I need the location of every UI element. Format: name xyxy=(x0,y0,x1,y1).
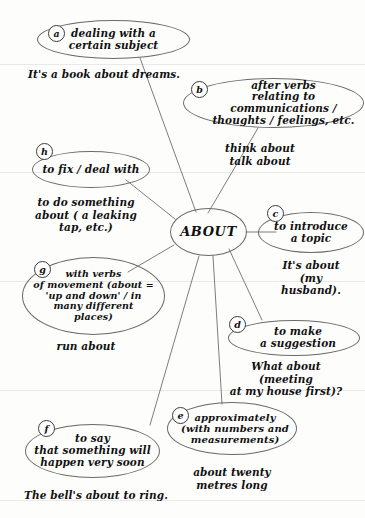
example-e: about twenty metres long xyxy=(186,466,278,491)
node-e-badge: e xyxy=(172,407,189,424)
example-g: run about xyxy=(40,340,132,353)
example-b: think about talk about xyxy=(219,142,301,167)
node-c-badge-letter: c xyxy=(273,209,279,219)
example-h: to do something about ( a leaking tap, e… xyxy=(34,196,138,234)
example-d: What about (meeting at my house first)? xyxy=(224,360,348,398)
node-a-badge: a xyxy=(48,25,65,42)
node-g-badge: g xyxy=(34,261,51,278)
connector-center-e xyxy=(213,256,222,404)
node-g-label: with verbs of movement (about = 'up and … xyxy=(27,269,160,322)
node-d-badge: d xyxy=(229,316,246,333)
node-d-badge-letter: d xyxy=(234,320,241,330)
example-a: It's a book about dreams. xyxy=(28,68,188,81)
node-g-badge-letter: g xyxy=(39,265,46,275)
center-node-label: ABOUT xyxy=(174,225,243,240)
connector-center-d xyxy=(229,249,262,320)
node-b[interactable]: after verbs relating to communications /… xyxy=(183,78,364,128)
node-f-badge-letter: f xyxy=(44,424,48,434)
center-node-about[interactable]: ABOUT xyxy=(170,208,247,256)
node-h-label: to fix / deal with xyxy=(36,164,145,176)
node-d[interactable]: to make a suggestion xyxy=(228,320,360,356)
node-b-badge-letter: b xyxy=(196,85,203,95)
node-e-badge-letter: e xyxy=(177,411,183,421)
node-f-label: to say that something will happen very s… xyxy=(28,433,157,468)
node-h-badge: h xyxy=(36,143,53,160)
node-a-badge-letter: a xyxy=(53,29,59,39)
node-d-label: to make a suggestion xyxy=(246,326,342,350)
connector-center-b xyxy=(208,128,258,213)
node-c-label: to introduce a topic xyxy=(268,221,354,245)
node-h-badge-letter: h xyxy=(41,147,48,157)
node-c-badge: c xyxy=(267,205,284,222)
node-b-badge: b xyxy=(191,81,208,98)
example-c: It's about (my husband). xyxy=(268,259,354,297)
mind-map-canvas: ABOUT dealing with a certain subject a a… xyxy=(0,0,365,518)
node-b-label: after verbs relating to communications /… xyxy=(184,80,363,127)
scan-rule xyxy=(0,64,365,65)
node-f-badge: f xyxy=(38,420,55,437)
node-a-label: dealing with a certain subject xyxy=(63,28,165,52)
example-f: The bell's about to ring. xyxy=(24,489,184,502)
